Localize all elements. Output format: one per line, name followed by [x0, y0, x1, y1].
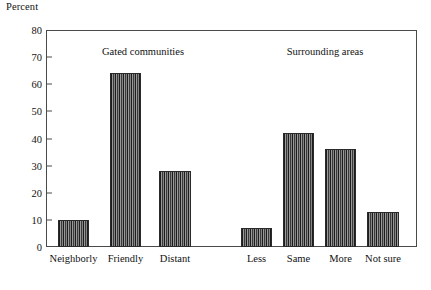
y-tick-mark — [46, 57, 52, 58]
y-tick-label: 50 — [8, 106, 42, 117]
y-tick-label: 60 — [8, 79, 42, 90]
plot-area — [46, 30, 417, 247]
y-tick-mark — [46, 219, 52, 220]
group-header: Gated communities — [102, 46, 184, 57]
x-tick-label: Less — [247, 253, 266, 264]
y-tick-label: 30 — [8, 160, 42, 171]
y-tick-mark — [46, 111, 52, 112]
bar-chart: Percent 01020304050607080 Gated communit… — [0, 0, 431, 290]
bar — [241, 228, 272, 247]
bar — [283, 133, 314, 247]
x-tick-label: Not sure — [365, 253, 401, 264]
bar — [159, 171, 191, 247]
y-tick-mark — [46, 84, 52, 85]
group-header: Surrounding areas — [287, 46, 364, 57]
y-tick-mark — [46, 138, 52, 139]
x-tick-label: Distant — [160, 253, 190, 264]
y-tick-label: 0 — [8, 242, 42, 253]
bar — [110, 73, 141, 247]
bar — [367, 212, 399, 247]
x-tick-label: Friendly — [108, 253, 144, 264]
y-tick-label: 20 — [8, 187, 42, 198]
y-tick-label: 10 — [8, 214, 42, 225]
x-tick-label: More — [329, 253, 352, 264]
y-tick-label: 40 — [8, 133, 42, 144]
y-axis-title: Percent — [6, 1, 38, 12]
bar — [58, 220, 89, 247]
bar — [325, 149, 356, 247]
y-tick-label: 80 — [8, 25, 42, 36]
y-tick-mark — [46, 165, 52, 166]
y-tick-mark — [46, 192, 52, 193]
y-tick-label: 70 — [8, 52, 42, 63]
x-tick-label: Neighborly — [50, 253, 98, 264]
x-tick-label: Same — [287, 253, 310, 264]
